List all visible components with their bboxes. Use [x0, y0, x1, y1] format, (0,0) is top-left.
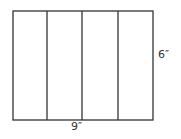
height-label: 6″ — [158, 49, 169, 60]
width-label: 9″ — [71, 121, 82, 132]
divided-rectangle-diagram: 9″ 6″ — [0, 0, 181, 139]
outer-rectangle — [13, 11, 153, 120]
rectangle-figure — [0, 0, 181, 139]
